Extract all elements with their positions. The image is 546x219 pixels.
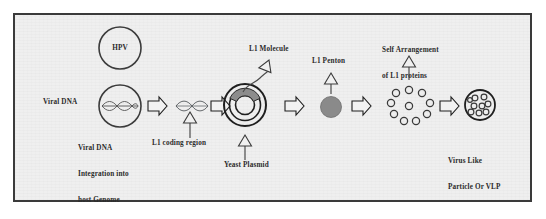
l1-penton-node [321, 97, 342, 118]
viral-dna-caption: Viral DNA Integration into host Genome [78, 127, 129, 219]
vlp-line1: Virus Like [448, 157, 501, 166]
flow-arrow-2 [211, 97, 230, 115]
l1-molecule-pointer [243, 58, 275, 92]
l1-molecule-arc [230, 88, 260, 101]
vlp-label: Virus Like Particle Or VLP [448, 140, 501, 209]
flow-arrow-1 [148, 97, 167, 115]
viral-dna-label: Viral DNA [43, 98, 77, 107]
self-arrangement-label: Self Arrangement of L1 proteins [382, 29, 439, 98]
l1-molecule-label: L1 Molecule [249, 45, 289, 54]
figure-canvas: HPV Viral DNA Viral DNA Integration into… [0, 0, 546, 219]
viral-dna-caption-line2: Integration into [78, 170, 129, 179]
flow-arrow-5 [440, 97, 459, 115]
viral-dna-caption-line1: Viral DNA [78, 144, 129, 153]
vlp-line2: Particle Or VLP [448, 183, 501, 192]
l1-coding-region-pointer [184, 112, 197, 138]
hpv-label: HPV [100, 44, 140, 53]
self-arrangement-line1: Self Arrangement [382, 46, 439, 55]
dna-strand-icon [102, 102, 138, 111]
l1-penton-label: L1 Penton [312, 57, 345, 66]
l1-coding-region-label: L1 coding region [152, 139, 206, 148]
l1-coding-region-node [176, 101, 208, 111]
self-arrangement-line2: of L1 proteins [382, 72, 439, 81]
flow-arrow-3 [285, 97, 304, 115]
vlp-node [465, 90, 495, 120]
flow-arrow-4 [352, 97, 371, 115]
l1-penton-pointer [325, 73, 338, 94]
viral-dna-node [99, 85, 141, 127]
yeast-plasmid-label: Yeast Plasmid [224, 161, 269, 170]
yeast-plasmid-node [224, 84, 266, 126]
viral-dna-caption-line3: host Genome [78, 196, 129, 205]
yeast-plasmid-pointer [239, 135, 252, 160]
